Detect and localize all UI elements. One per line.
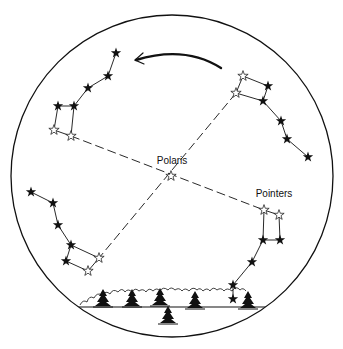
filled-star-icon: [111, 48, 121, 58]
polaris-label: Polaris: [157, 155, 188, 166]
tree-icon: [158, 306, 178, 324]
filled-star-icon: [26, 187, 36, 197]
filled-star-icon: [66, 240, 76, 250]
filled-star-icon: [303, 152, 313, 162]
filled-star-icon: [263, 81, 273, 91]
filled-star-icon: [258, 96, 268, 106]
filled-star-icon: [48, 198, 58, 208]
dipper-lower-right: [233, 210, 280, 299]
filled-star-icon: [275, 235, 285, 245]
filled-star-icon: [61, 256, 71, 266]
pointer-line-ul-lr: [71, 136, 264, 210]
tree-icon: [185, 291, 205, 309]
hollow-star-icon: [49, 125, 59, 135]
hollow-star-icon: [238, 71, 248, 81]
hollow-star-icon: [231, 88, 241, 98]
polaris-star-icon: [166, 171, 176, 181]
filled-star-icon: [247, 257, 257, 267]
filled-star-icon: [53, 101, 63, 111]
filled-star-icon: [53, 220, 63, 230]
dipper-upper-left: [54, 53, 116, 136]
hollow-star-icon: [66, 131, 76, 141]
filled-star-icon: [258, 235, 268, 245]
horizon: [77, 288, 266, 324]
pointers-label: Pointers: [256, 188, 293, 199]
rotation-arrow-icon: [135, 53, 221, 68]
tree-icon: [238, 291, 258, 309]
big-dipper-diagram: [0, 0, 343, 349]
dipper-upper-right: [236, 76, 308, 157]
filled-star-icon: [103, 71, 113, 81]
filled-star-icon: [228, 294, 238, 304]
filled-star-icon: [83, 83, 93, 93]
tree-icon: [93, 289, 113, 307]
